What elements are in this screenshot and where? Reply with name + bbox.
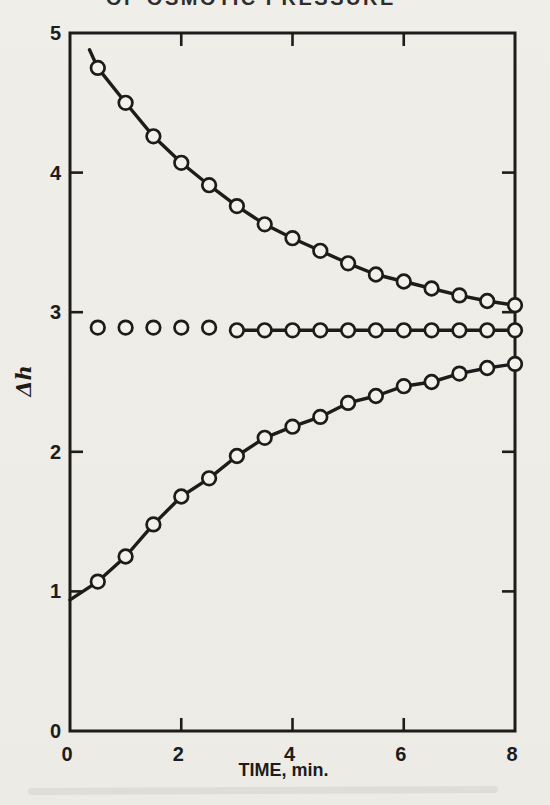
- chart-canvas: 01234502468TIME, min.Δh: [0, 0, 550, 805]
- upper-descending-curve-data-point: [175, 156, 189, 170]
- upper-descending-curve-data-point: [397, 275, 411, 289]
- upper-descending-curve-data-point: [453, 289, 467, 303]
- lower-ascending-curve-data-point: [286, 420, 300, 434]
- lower-ascending-curve-data-point: [341, 396, 355, 410]
- lower-ascending-curve-data-point: [147, 518, 161, 532]
- middle-equilibrium-line-data-point: [341, 324, 355, 338]
- middle-equilibrium-line-data-point: [91, 321, 105, 335]
- y-axis-tick-label: 0: [50, 720, 61, 742]
- upper-descending-curve-data-point: [369, 268, 383, 282]
- middle-equilibrium-line-data-point: [147, 321, 161, 335]
- upper-descending-curve-data-point: [258, 218, 272, 232]
- upper-descending-curve-data-point: [202, 178, 216, 192]
- y-axis-tick-label: 2: [50, 441, 61, 463]
- y-axis-tick-label: 1: [50, 580, 61, 602]
- y-axis-tick-label: 4: [50, 162, 62, 184]
- upper-descending-curve-data-point: [286, 231, 300, 245]
- lower-ascending-curve-data-point: [230, 449, 244, 463]
- lower-ascending-curve-data-point: [397, 379, 411, 393]
- middle-equilibrium-line-data-point: [480, 324, 494, 338]
- upper-descending-curve-data-point: [425, 282, 439, 296]
- middle-equilibrium-line-data-point: [508, 324, 522, 338]
- middle-equilibrium-line-data-point: [175, 321, 189, 335]
- middle-equilibrium-line-data-point: [258, 324, 272, 338]
- y-axis-tick-label: 5: [50, 22, 61, 44]
- osmotic-pressure-chart: 01234502468TIME, min.Δh: [0, 0, 550, 805]
- upper-descending-curve-line: [90, 50, 516, 305]
- lower-ascending-curve-data-point: [453, 367, 467, 381]
- lower-ascending-curve-data-point: [314, 410, 328, 424]
- lower-ascending-curve-data-point: [119, 550, 133, 564]
- middle-equilibrium-line-data-point: [397, 324, 411, 338]
- lower-ascending-curve-data-point: [369, 389, 383, 403]
- middle-equilibrium-line-data-point: [230, 324, 244, 338]
- plot-frame: [70, 33, 515, 731]
- x-axis-tick-label: 6: [395, 743, 406, 765]
- scanned-book-page: OF OSMOTIC PRESSURE 01234502468TIME, min…: [0, 0, 550, 805]
- upper-descending-curve-data-point: [230, 199, 244, 213]
- upper-descending-curve-data-point: [341, 257, 355, 271]
- y-axis-tick-label: 3: [50, 301, 61, 323]
- upper-descending-curve-data-point: [119, 96, 133, 110]
- x-axis-tick-label: 2: [173, 743, 184, 765]
- upper-descending-curve-data-point: [480, 294, 494, 308]
- middle-equilibrium-line-data-point: [314, 324, 328, 338]
- lower-ascending-curve-data-point: [258, 431, 272, 445]
- x-axis-tick-label: 8: [506, 743, 517, 765]
- x-axis-tick-label: 0: [61, 743, 72, 765]
- lower-ascending-curve-line: [70, 364, 515, 600]
- upper-descending-curve-data-point: [508, 298, 522, 312]
- lower-ascending-curve-data-point: [480, 361, 494, 375]
- lower-ascending-curve-data-point: [202, 472, 216, 486]
- upper-descending-curve-data-point: [147, 130, 161, 144]
- middle-equilibrium-line-data-point: [119, 321, 133, 335]
- middle-equilibrium-line-data-point: [202, 321, 216, 335]
- lower-ascending-curve-data-point: [425, 375, 439, 389]
- middle-equilibrium-line-data-point: [369, 324, 383, 338]
- middle-equilibrium-line-data-point: [286, 324, 300, 338]
- lower-ascending-curve-data-point: [175, 490, 189, 504]
- middle-equilibrium-line-data-point: [425, 324, 439, 338]
- y-axis-label: Δh: [11, 365, 36, 398]
- upper-descending-curve-data-point: [91, 61, 105, 75]
- middle-equilibrium-line-data-point: [453, 324, 467, 338]
- lower-ascending-curve-data-point: [91, 575, 105, 589]
- lower-ascending-curve-data-point: [508, 357, 522, 371]
- x-axis-label: TIME, min.: [239, 760, 329, 780]
- upper-descending-curve-data-point: [314, 244, 328, 258]
